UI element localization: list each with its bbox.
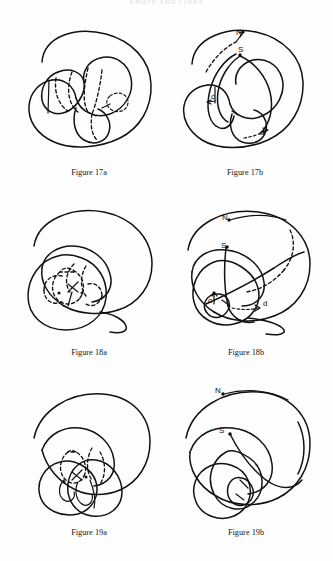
figure-17b-label-s: S [238,46,243,54]
figure-19b: Figure 19b N S [170,376,322,526]
figure-18b-label-n: N [222,214,228,222]
figure-19b-caption: Figure 19b [170,528,322,537]
figure-19b-drawing [170,376,322,524]
document-page: KNOTS AND LINKS [0,0,333,561]
figure-18a-drawing [14,196,164,344]
figure-19b-label-s: S [219,427,224,435]
figure-18b-drawing [170,196,322,344]
figure-17a: Figure 17a [14,16,164,166]
figure-17b-caption: Figure 17b [170,168,320,177]
figure-17b-drawing [170,16,320,164]
figure-17b: Figure 17b N S c d [170,16,320,166]
figure-18a: Figure 18a [14,196,164,346]
figure-19a-caption: Figure 19a [14,528,164,537]
figure-18b-label-c: c [208,297,212,305]
figure-17a-caption: Figure 17a [14,168,164,177]
figure-18b-caption: Figure 18b [170,348,322,357]
figure-18b: Figure 18b N S c d [170,196,322,346]
figure-18b-label-s: S [221,242,226,250]
figure-17b-label-d: d [260,129,264,137]
figure-17b-label-c: c [211,93,215,101]
figure-18a-caption: Figure 18a [14,348,164,357]
figure-19a: Figure 19a [14,376,164,526]
running-head: KNOTS AND LINKS [0,0,333,6]
figure-17b-label-n: N [236,29,242,37]
figure-18b-label-d: d [263,300,267,308]
figure-17a-drawing [14,16,164,164]
figure-19b-label-n: N [215,387,221,395]
figure-19a-drawing [14,376,164,524]
